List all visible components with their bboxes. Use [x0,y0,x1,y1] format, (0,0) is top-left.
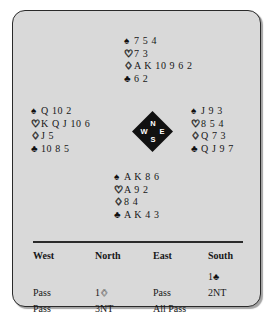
south-spades: A K 8 6 [124,171,160,184]
spade-icon: ♠ [124,35,134,48]
south-hearts-row: ♡ A 9 2 [114,184,160,197]
east-diamonds: Q 7 3 [201,130,226,143]
south-spades-row: ♠ A K 8 6 [114,171,160,184]
bid-east-3: All Pass [153,301,208,317]
auction-header-north: North [95,250,153,269]
east-hearts: 8 5 4 [201,118,224,131]
bid-north-3: 3NT [95,301,153,317]
north-hearts: 7 3 [134,48,148,61]
diamond-icon: ♢ [114,196,124,209]
auction-header-west: West [33,250,95,269]
west-spades: Q 10 2 [41,105,72,118]
heart-icon: ♡ [191,118,201,131]
west-diamonds: J 5 [41,130,54,143]
north-spades-row: ♠ 7 5 4 [124,35,193,48]
east-diamonds-row: ♢ Q 7 3 [191,130,234,143]
spade-icon: ♠ [191,105,201,118]
diamond-icon: ♢ [31,130,41,143]
auction-header-east: East [153,250,208,269]
bid-east-1 [153,269,208,285]
auction-header-south: South [208,250,245,269]
heart-icon: ♡ [124,48,134,61]
compass-rose: N W E S [133,112,173,152]
compass-label-west: W [138,128,150,136]
diamond-icon: ♢ [124,60,134,73]
east-clubs: Q J 9 7 [201,143,234,156]
north-clubs-row: ♣ 6 2 [124,73,193,86]
east-hearts-row: ♡ 8 5 4 [191,118,234,131]
south-diamonds-row: ♢ 8 4 [114,196,160,209]
north-diamonds-row: ♢ A K 10 9 6 2 [124,60,193,73]
south-diamonds: 8 4 [124,196,138,209]
west-spades-row: ♠ Q 10 2 [31,105,90,118]
compass-label-south: S [147,136,159,144]
club-icon: ♣ [114,209,124,222]
club-icon: ♣ [31,143,41,156]
bid-north-2: 1♢ [95,285,153,301]
west-hearts-row: ♡ K Q J 10 6 [31,118,90,131]
bid-south-3 [208,301,245,317]
north-hearts-row: ♡ 7 3 [124,48,193,61]
auction-header-row: West North East South [33,250,245,269]
west-clubs-row: ♣ 10 8 5 [31,143,90,156]
bid-north-1 [95,269,153,285]
auction-divider [33,241,243,243]
spade-icon: ♠ [114,171,124,184]
west-hearts: K Q J 10 6 [41,118,90,131]
auction-row: Pass 1♢ Pass 2NT [33,285,245,301]
west-clubs: 10 8 5 [41,143,70,156]
east-spades: J 9 3 [201,105,223,118]
bid-west-2: Pass [33,285,95,301]
club-icon: ♣ [213,272,219,282]
east-spades-row: ♠ J 9 3 [191,105,234,118]
south-clubs: A K 4 3 [124,209,160,222]
hand-west: ♠ Q 10 2 ♡ K Q J 10 6 ♢ J 5 ♣ 10 8 5 [31,105,90,155]
hand-east: ♠ J 9 3 ♡ 8 5 4 ♢ Q 7 3 ♣ Q J 9 7 [191,105,234,155]
spade-icon: ♠ [31,105,41,118]
bridge-deal-card: ♠ 7 5 4 ♡ 7 3 ♢ A K 10 9 6 2 ♣ 6 2 ♠ Q 1… [12,10,261,307]
club-icon: ♣ [191,143,201,156]
bid-west-3: Pass [33,301,95,317]
hand-north: ♠ 7 5 4 ♡ 7 3 ♢ A K 10 9 6 2 ♣ 6 2 [124,35,193,85]
diamond-icon: ♢ [100,288,109,298]
north-diamonds: A K 10 9 6 2 [134,60,193,73]
heart-icon: ♡ [31,118,41,131]
auction-table: West North East South 1♣ Pass 1♢ Pass 2N… [33,250,245,317]
heart-icon: ♡ [114,184,124,197]
west-diamonds-row: ♢ J 5 [31,130,90,143]
north-spades: 7 5 4 [134,35,157,48]
club-icon: ♣ [124,73,134,86]
compass-label-north: N [147,120,159,128]
bid-west-1 [33,269,95,285]
bid-south-2: 2NT [208,285,245,301]
bid-east-2: Pass [153,285,208,301]
north-clubs: 6 2 [134,73,148,86]
auction-row: 1♣ [33,269,245,285]
bid-south-1: 1♣ [208,269,245,285]
diamond-icon: ♢ [191,130,201,143]
compass-label-east: E [156,128,168,136]
hand-south: ♠ A K 8 6 ♡ A 9 2 ♢ 8 4 ♣ A K 4 3 [114,171,160,221]
south-hearts: A 9 2 [124,184,149,197]
auction-row: Pass 3NT All Pass [33,301,245,317]
south-clubs-row: ♣ A K 4 3 [114,209,160,222]
east-clubs-row: ♣ Q J 9 7 [191,143,234,156]
